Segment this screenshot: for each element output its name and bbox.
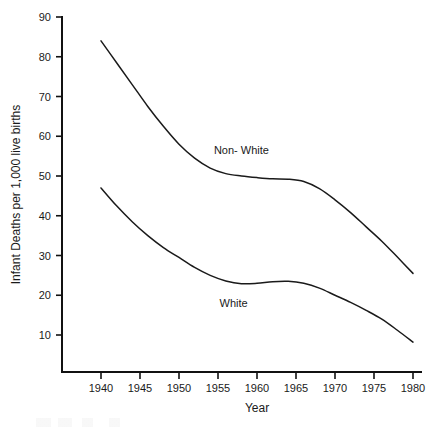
x-axis-title: Year <box>245 401 269 415</box>
infant-mortality-line-chart: 102030405060708090 194019451950195519601… <box>0 0 437 431</box>
y-tick-label: 90 <box>39 11 51 23</box>
x-tick-label: 1970 <box>323 382 347 394</box>
y-tick-label: 80 <box>39 51 51 63</box>
x-tick-label: 1980 <box>401 382 425 394</box>
x-tick-label: 1955 <box>206 382 230 394</box>
series-label-1: Non- White <box>214 144 269 156</box>
x-tick-label: 1960 <box>245 382 269 394</box>
y-tick-label: 20 <box>39 289 51 301</box>
series-line-1 <box>101 41 413 274</box>
x-tick-label: 1950 <box>167 382 191 394</box>
y-tick-label: 60 <box>39 130 51 142</box>
data-series-group <box>101 41 413 342</box>
series-label-2: White <box>220 297 248 309</box>
x-tick-label: 1940 <box>89 382 113 394</box>
y-tick-label: 30 <box>39 250 51 262</box>
chart-canvas: 102030405060708090 194019451950195519601… <box>0 0 437 431</box>
x-tick-label: 1945 <box>128 382 152 394</box>
y-axis-title: Infant Deaths per 1,000 live births <box>9 105 23 284</box>
y-tick-label: 70 <box>39 91 51 103</box>
x-axis-tick-marks <box>101 372 413 379</box>
x-tick-label: 1975 <box>362 382 386 394</box>
x-tick-label: 1965 <box>284 382 308 394</box>
y-tick-label: 50 <box>39 170 51 182</box>
x-axis-tick-labels: 194019451950195519601965197019751980 <box>89 382 425 394</box>
y-tick-label: 40 <box>39 210 51 222</box>
y-tick-label: 10 <box>39 329 51 341</box>
series-line-2 <box>101 188 413 342</box>
page-edge-artifact <box>36 418 146 427</box>
y-axis-tick-labels: 102030405060708090 <box>39 11 51 341</box>
